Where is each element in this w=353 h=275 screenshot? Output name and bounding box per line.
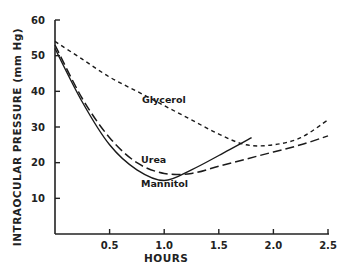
y-tick-label: 40	[31, 86, 45, 97]
axes: 1020304050600.51.01.52.02.5HOURSINTRAOCU…	[11, 15, 337, 265]
y-tick-label: 30	[31, 122, 45, 133]
x-tick-label: 1.0	[155, 240, 173, 251]
y-axis-title: INTRAOCULAR PRESSURE (mm Hg)	[11, 28, 23, 246]
series-layer	[55, 41, 328, 180]
x-tick-label: 1.5	[210, 240, 228, 251]
series-glycerol-line	[55, 41, 328, 146]
y-tick-label: 50	[31, 50, 45, 61]
x-tick-label: 2.0	[265, 240, 283, 251]
y-tick-label: 20	[31, 157, 45, 168]
chart: 1020304050600.51.01.52.02.5HOURSINTRAOCU…	[0, 0, 353, 275]
x-tick-label: 0.5	[101, 240, 119, 251]
series-label-glycerol: Glycerol	[142, 94, 186, 105]
series-label-urea: Urea	[141, 154, 166, 165]
y-tick-label: 60	[31, 15, 45, 26]
series-urea-line	[55, 45, 328, 175]
y-tick-label: 10	[31, 193, 45, 204]
x-axis-title: HOURS	[144, 252, 188, 264]
series-label-mannitol: Mannitol	[141, 178, 188, 189]
x-tick-label: 2.5	[319, 240, 337, 251]
